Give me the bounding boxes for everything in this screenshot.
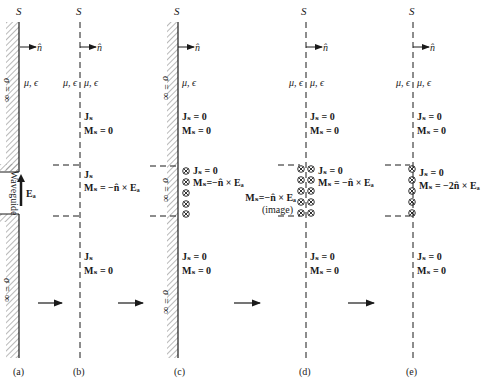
panel-caption: (c): [174, 366, 185, 378]
medium-label: μ, ϵ: [181, 77, 197, 88]
conductor-label-top: σ = ∞: [2, 78, 13, 102]
aperture-current-M: Mₛ=−n̂ × Eₐ: [193, 177, 244, 188]
aperture-current-M: Mₛ = −n̂ × Eₐ: [84, 182, 140, 193]
image-current-column: [298, 166, 305, 217]
equivalence-principle-diagram: S Waveguide Eₐ n̂ μ, ϵ σ = ∞ σ = ∞ (a) S…: [0, 0, 492, 381]
normal-label: n̂: [37, 42, 42, 53]
current-into-page-icon: [308, 199, 315, 206]
current-into-page-icon: [409, 188, 416, 195]
panel-b: S n̂ μ, ϵ μ, ϵ Jₛ Mₛ = 0 Jₛ Mₛ = −n̂ × E…: [53, 5, 140, 378]
conductor-label-aperture: σ = ∞: [161, 178, 172, 202]
bottom-current-M: Mₛ = 0: [417, 265, 446, 276]
waveguide-label: Waveguide: [9, 171, 20, 216]
top-current-J: Jₛ = 0: [310, 111, 335, 122]
magnetic-current-column: [409, 166, 416, 217]
current-into-page-icon: [183, 201, 190, 208]
medium-label-left: μ, ϵ: [288, 77, 304, 88]
current-into-page-icon: [298, 199, 305, 206]
current-into-page-icon: [409, 177, 416, 184]
aperture-field-label: Eₐ: [26, 188, 36, 199]
current-into-page-icon: [183, 190, 190, 197]
bottom-current-J: Jₛ = 0: [310, 251, 335, 262]
medium-label: μ, ϵ: [23, 77, 39, 88]
bottom-current-J: Jₛ: [84, 251, 93, 262]
panel-caption: (e): [406, 366, 417, 378]
aperture-current-J: Jₛ = 0: [193, 165, 218, 176]
aperture-current-M: Mₛ = −n̂ × Eₐ: [318, 177, 374, 188]
aperture-current-J: Jₛ = 0: [419, 167, 444, 178]
conductor-label-bottom: σ = ∞: [2, 278, 13, 302]
bottom-current-M: Mₛ = 0: [182, 265, 211, 276]
conductor-label-bottom: σ = ∞: [161, 290, 172, 314]
conductor-label-top: σ = ∞: [161, 76, 172, 100]
surface-label: S: [76, 5, 82, 17]
bottom-current-M: Mₛ = 0: [310, 265, 339, 276]
magnetic-current-column: [183, 168, 190, 218]
current-into-page-icon: [409, 210, 416, 217]
panel-caption: (d): [299, 366, 311, 378]
bottom-current-M: Mₛ = 0: [84, 265, 113, 276]
aperture-current-J: Jₛ: [84, 169, 93, 180]
current-into-page-icon: [183, 168, 190, 175]
top-current-J: Jₛ: [84, 111, 93, 122]
image-note: (image): [262, 204, 293, 216]
medium-label-right: μ, ϵ: [83, 77, 99, 88]
top-current-M: Mₛ = 0: [84, 125, 113, 136]
normal-label: n̂: [430, 42, 435, 53]
bottom-current-J: Jₛ = 0: [182, 251, 207, 262]
current-into-page-icon: [298, 188, 305, 195]
current-into-page-icon: [298, 210, 305, 217]
current-into-page-icon: [308, 166, 315, 173]
medium-label-left: μ, ϵ: [395, 77, 411, 88]
actual-current-column: [308, 166, 315, 217]
surface-label: S: [409, 5, 415, 17]
normal-label: n̂: [323, 42, 328, 53]
panel-caption: (a): [13, 366, 24, 378]
aperture-current-J: Jₛ = 0: [318, 165, 343, 176]
normal-label: n̂: [97, 42, 102, 53]
medium-label-right: μ, ϵ: [416, 77, 432, 88]
panel-caption: (b): [73, 366, 85, 378]
top-current-M: Mₛ = 0: [310, 125, 339, 136]
panel-c: S n̂ μ, ϵ σ = ∞ σ = ∞ σ = ∞ Jₛ = 0 Mₛ = …: [150, 5, 244, 378]
panel-e: S n̂ μ, ϵ μ, ϵ Jₛ = 0 Mₛ = 0 Jₛ = 0 Mₛ =…: [385, 5, 480, 378]
current-into-page-icon: [308, 177, 315, 184]
current-into-page-icon: [298, 166, 305, 173]
current-into-page-icon: [308, 188, 315, 195]
current-into-page-icon: [298, 177, 305, 184]
surface-label: S: [301, 5, 307, 17]
top-current-M: Mₛ = 0: [417, 125, 446, 136]
panel-a: S Waveguide Eₐ n̂ μ, ϵ σ = ∞ σ = ∞ (a): [0, 5, 42, 378]
surface-label: S: [16, 5, 22, 17]
image-current-M: Mₛ=−n̂ × Eₐ: [245, 192, 296, 203]
bottom-current-J: Jₛ = 0: [417, 251, 442, 262]
medium-label-left: μ, ϵ: [62, 77, 78, 88]
aperture-current-M: Mₛ = −2n̂ × Eₐ: [419, 180, 480, 191]
medium-label-right: μ, ϵ: [309, 77, 325, 88]
surface-label: S: [174, 5, 180, 17]
current-into-page-icon: [308, 210, 315, 217]
top-current-M: Mₛ = 0: [182, 125, 211, 136]
current-into-page-icon: [183, 211, 190, 218]
normal-label: n̂: [195, 42, 200, 53]
panel-d: S n̂ μ, ϵ μ, ϵ Jₛ = 0 Mₛ = 0 Jₛ = 0 Mₛ =…: [245, 5, 373, 378]
current-into-page-icon: [409, 199, 416, 206]
top-current-J: Jₛ = 0: [417, 111, 442, 122]
current-into-page-icon: [409, 166, 416, 173]
current-into-page-icon: [183, 179, 190, 186]
top-current-J: Jₛ = 0: [182, 111, 207, 122]
